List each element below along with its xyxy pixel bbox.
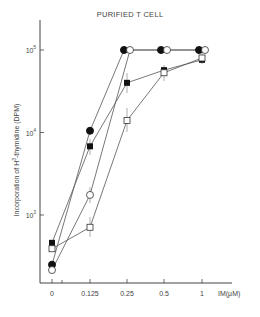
data-point-open-circle <box>127 47 134 54</box>
x-tick-label: 0 <box>50 290 54 297</box>
x-tick-label: 0.25 <box>120 290 134 297</box>
chart-plot: 10310410500.1250.250.51IM(μM)Incorporati… <box>0 0 260 317</box>
y-tick-label: 105 <box>26 45 37 54</box>
x-tick-label: 0.5 <box>159 290 169 297</box>
data-point-filled-square <box>124 80 130 86</box>
data-point-open-circle <box>202 47 209 54</box>
y-tick-label: 103 <box>26 210 37 219</box>
data-point-open-circle <box>164 47 171 54</box>
data-point-filled-square <box>49 240 55 246</box>
data-point-open-square <box>199 55 205 61</box>
y-axis-label: Incorporation of H3-thymidine (DPM) <box>11 104 21 217</box>
data-point-filled-square <box>87 143 93 149</box>
x-tick-label: 1 <box>200 290 204 297</box>
x-tick-label: 0.125 <box>81 290 99 297</box>
data-point-open-square <box>161 70 167 76</box>
data-point-open-circle <box>87 191 94 198</box>
data-point-open-square <box>49 246 55 252</box>
y-tick-label: 104 <box>26 128 37 137</box>
chart-container: PURIFIED T CELL 10310410500.1250.250.51I… <box>0 0 260 317</box>
data-point-open-square <box>124 117 130 123</box>
data-point-open-square <box>87 224 93 230</box>
x-axis-label: IM(μM) <box>218 290 240 298</box>
data-point-filled-circle <box>87 127 94 134</box>
data-point-open-circle <box>49 267 56 274</box>
